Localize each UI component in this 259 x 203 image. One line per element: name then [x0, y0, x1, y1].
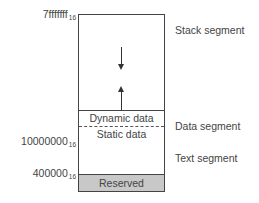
text-segment-label: Text segment: [175, 152, 237, 164]
address-text-start-label: 1000000016: [21, 135, 76, 148]
stack-growth-line: [121, 47, 122, 65]
address-base: 16: [69, 173, 76, 180]
address-value: 400000: [33, 167, 68, 179]
address-top-label: 7fffffff16: [43, 8, 76, 21]
heap-growth-line: [121, 92, 122, 110]
stack-segment-label: Stack segment: [175, 24, 244, 36]
dashed-divider: [79, 126, 164, 127]
address-reserved-end-label: 40000016: [33, 167, 76, 180]
address-value: 10000000: [21, 135, 68, 147]
data-segment-label: Data segment: [175, 120, 240, 132]
dynamic-data-label: Dynamic data: [79, 112, 164, 124]
static-data-label: Static data: [79, 128, 164, 140]
reserved-block: Reserved: [78, 174, 165, 192]
address-base: 16: [69, 141, 76, 148]
arrow-down-icon: [118, 64, 124, 70]
text-block: [78, 142, 165, 175]
address-base: 16: [69, 14, 76, 21]
stack-block: [78, 14, 165, 47]
address-value: 7fffffff: [43, 8, 68, 20]
data-block: Dynamic data Static data: [78, 110, 165, 143]
reserved-label: Reserved: [79, 177, 164, 189]
